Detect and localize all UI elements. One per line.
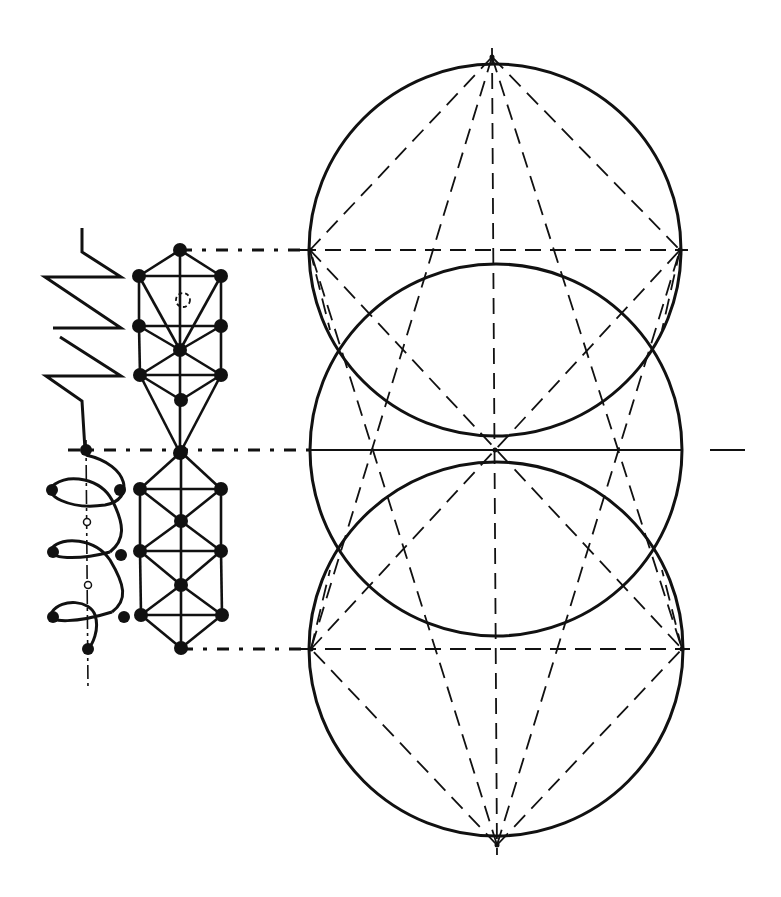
- atom-node: [174, 641, 188, 655]
- atom-node: [215, 608, 229, 622]
- bond: [181, 521, 221, 551]
- bond: [139, 250, 180, 276]
- helix-node: [114, 484, 126, 496]
- bond: [181, 452, 221, 489]
- axis-node: [82, 643, 94, 655]
- helix-loop: [51, 455, 124, 552]
- open-node: [85, 582, 92, 589]
- atom-node: [132, 319, 146, 333]
- atom-node: [133, 482, 147, 496]
- atom-node: [173, 343, 187, 357]
- open-node: [84, 519, 91, 526]
- bond: [181, 615, 222, 648]
- atom-node: [132, 269, 146, 283]
- diagram-svg: [0, 0, 781, 897]
- bond: [139, 326, 140, 375]
- upper-atom-lattice: [132, 243, 228, 460]
- bond: [140, 452, 181, 489]
- helix-node: [115, 549, 127, 561]
- zigzag-chain: [45, 228, 121, 450]
- helix-chain: [46, 440, 130, 690]
- axis-node: [80, 444, 92, 456]
- atom-node: [173, 243, 187, 257]
- apex-top: [490, 55, 495, 60]
- helix-node: [47, 611, 59, 623]
- atom-node: [214, 544, 228, 558]
- bond: [221, 551, 222, 615]
- helix-loop: [51, 603, 112, 649]
- zigzag-segment: [46, 337, 121, 450]
- bond: [140, 350, 180, 375]
- bond: [180, 250, 221, 276]
- atom-node: [214, 319, 228, 333]
- crystal-construction-diagram: [0, 0, 781, 897]
- atom-node: [133, 544, 147, 558]
- lower-atom-lattice: [133, 445, 229, 655]
- apex-bottom-left: [309, 647, 314, 652]
- helix-node: [46, 484, 58, 496]
- atom-node: [174, 393, 188, 407]
- atom-node: [134, 608, 148, 622]
- atom-node: [214, 368, 228, 382]
- bond: [140, 489, 181, 521]
- apex-center: [493, 448, 498, 453]
- zigzag-segment: [45, 228, 121, 328]
- helix-node: [118, 611, 130, 623]
- atom-node: [174, 578, 188, 592]
- hidden-atom-node: [176, 293, 190, 307]
- bond: [181, 551, 221, 585]
- bond: [180, 350, 221, 375]
- bond: [140, 521, 181, 551]
- atom-node: [214, 482, 228, 496]
- atom-node: [214, 269, 228, 283]
- atom-node: [174, 514, 188, 528]
- bond: [141, 615, 181, 648]
- apex-top-right: [678, 248, 683, 253]
- apex-bottom-right: [680, 647, 685, 652]
- bond: [140, 551, 141, 615]
- helix-node: [47, 546, 59, 558]
- dashed-line: [492, 57, 680, 250]
- bond: [141, 585, 181, 615]
- bond: [181, 585, 222, 615]
- atom-node: [174, 445, 188, 459]
- apex-bottom: [495, 843, 500, 848]
- dashed-line: [311, 649, 497, 845]
- apex-top-left: [308, 248, 313, 253]
- atom-node: [133, 368, 147, 382]
- dash-dot-leader-lines: [68, 250, 311, 649]
- bond: [140, 551, 181, 585]
- bond: [181, 489, 221, 521]
